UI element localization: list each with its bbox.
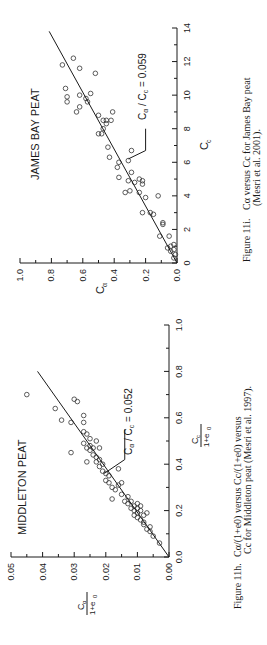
panel-title: JAMES BAY PEAT [29, 88, 41, 180]
data-point [25, 392, 30, 397]
data-point [129, 170, 134, 175]
x-tick-label: 4 [182, 193, 192, 198]
data-point [110, 497, 115, 502]
data-point [135, 515, 140, 520]
caption: Figure 11i. Cα versus Cc for James Bay p… [241, 77, 263, 262]
x-label-numerator-sub: c [195, 435, 201, 438]
data-point [107, 155, 112, 160]
data-point [104, 478, 109, 483]
data-point [75, 399, 80, 404]
data-point [77, 66, 82, 71]
x-tick-label: 0.0 [174, 551, 184, 564]
x-tick-label: 14 [182, 23, 192, 33]
caption: Figure 11h. Cα/(1+e0) versus Cc/(1+e0) v… [232, 386, 254, 609]
y-tick-label: 0.00 [164, 563, 174, 581]
y-tick-label: 1.0 [15, 269, 25, 282]
data-point [106, 145, 111, 150]
data-point [74, 110, 79, 115]
data-point [110, 110, 115, 115]
x-tick-label: 0.6 [174, 412, 184, 425]
x-label-denominator: 1+e [202, 433, 211, 447]
data-point [138, 508, 143, 513]
data-point [71, 56, 76, 61]
annotation-leader [104, 429, 125, 473]
x-label-denominator-sub: 0 [206, 426, 212, 430]
y-tick-label: 0.6 [78, 269, 88, 282]
data-point [91, 453, 96, 458]
data-point [100, 469, 105, 474]
y-tick-label: 0.02 [101, 563, 111, 581]
data-point [116, 467, 121, 472]
data-point [122, 499, 127, 504]
data-point [104, 118, 109, 123]
y-tick-label: 0.01 [132, 563, 142, 581]
y-tick-label: 0.8 [46, 269, 56, 282]
fit-line [38, 371, 169, 557]
data-point [141, 513, 146, 518]
panel-title: MIDDLETON PEAT [16, 439, 28, 535]
x-tick-label: 0.2 [174, 504, 184, 517]
data-point [88, 436, 93, 441]
data-point [85, 460, 90, 465]
data-point [72, 397, 77, 402]
data-point [138, 504, 143, 509]
data-point [60, 63, 65, 68]
x-label-sub: c [205, 139, 212, 143]
data-point [156, 194, 161, 199]
annotation-leader [128, 129, 145, 159]
caption-label: Figure 11i. [241, 218, 252, 262]
data-point [97, 464, 102, 469]
data-point [65, 95, 70, 100]
data-point [113, 487, 118, 492]
y-axis-label: C α 1+e 0 [76, 592, 98, 615]
y-tick-label: 0.4 [109, 269, 119, 282]
data-point [143, 195, 148, 200]
y-tick-label: 0.05 [6, 563, 16, 581]
data-point [97, 446, 102, 451]
data-point [94, 460, 99, 465]
data-point [96, 131, 101, 136]
y-tick-label: 0.04 [38, 563, 48, 581]
data-point [129, 506, 134, 511]
y-label-numerator-sub: α [81, 600, 87, 604]
data-point [88, 448, 93, 453]
data-point [128, 189, 133, 194]
data-point [93, 71, 98, 76]
x-tick-label: 1.0 [174, 319, 184, 332]
annotation: Cα / Cc = 0.059 [137, 53, 149, 120]
data-point [69, 450, 74, 455]
x-tick-label: 0 [182, 260, 192, 265]
x-tick-label: 6 [182, 160, 192, 165]
data-point [110, 485, 115, 490]
data-point [140, 210, 145, 215]
y-tick-label: 0.0 [172, 269, 182, 282]
data-point [77, 93, 82, 98]
caption-label: Figure 11h. [232, 563, 243, 609]
x-tick-label: 8 [182, 126, 192, 131]
data-point [115, 165, 120, 170]
y-label-denominator: 1+e [88, 601, 97, 615]
data-points [25, 392, 162, 545]
y-axis-label: C α [94, 283, 108, 294]
y-label-sub: α [101, 283, 108, 287]
data-point [126, 178, 131, 183]
annotation-text: Cα / Cc = 0.059 [137, 53, 149, 120]
data-point [135, 501, 140, 506]
data-point [109, 118, 114, 123]
data-point [85, 446, 90, 451]
data-point [77, 105, 82, 110]
james-bay-chart: 024681012140.00.20.40.60.81.0 JAMES BAY … [15, 23, 263, 294]
data-point [63, 86, 68, 91]
data-point [119, 480, 124, 485]
data-point [94, 439, 99, 444]
caption-line-2: Cc for Middleton peat (Mesri et al. 1997… [242, 386, 254, 554]
fit-line [49, 31, 177, 263]
data-point [81, 413, 86, 418]
y-label-denominator-sub: 0 [92, 594, 98, 598]
data-point [81, 429, 86, 434]
caption-line-2: (Mesri et al. 2001). [251, 129, 263, 206]
data-point [123, 190, 128, 195]
data-point [167, 234, 172, 239]
data-point [85, 432, 90, 437]
data-point [145, 511, 150, 516]
